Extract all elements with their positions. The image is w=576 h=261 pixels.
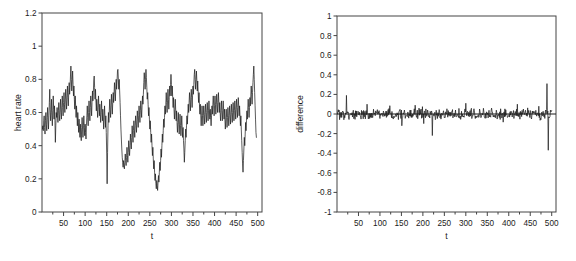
chart-panel-heart-rate: 00.20.40.60.811.250100150200250300350400…	[0, 0, 288, 261]
y-tick-label: -0.6	[317, 169, 332, 178]
y-tick-label: 0.8	[320, 32, 332, 41]
y-tick-label: 0.6	[320, 51, 332, 60]
x-tick-label: 350	[480, 219, 494, 228]
x-axis-group: 50100150200250300350400450500	[53, 212, 265, 228]
x-tick-label: 500	[251, 219, 265, 228]
x-tick-label: 350	[186, 219, 200, 228]
y-tick-label: -0.2	[317, 130, 332, 139]
x-tick-label: 250	[143, 219, 157, 228]
chart-panel-difference: -1-0.8-0.6-0.4-0.200.20.40.60.8150100150…	[288, 0, 576, 261]
y-axis-group: 00.20.40.60.811.2	[25, 9, 42, 217]
y-tick-label: -0.8	[317, 188, 332, 197]
x-tick-label: 200	[121, 219, 135, 228]
x-axis-title: t	[151, 231, 154, 241]
figure-root: 00.20.40.60.811.250100150200250300350400…	[0, 0, 576, 261]
x-tick-label: 50	[354, 219, 364, 228]
x-tick-label: 150	[395, 219, 409, 228]
y-tick-label: -1	[324, 208, 332, 217]
x-tick-label: 150	[100, 219, 114, 228]
y-tick-label: 1	[327, 12, 332, 21]
data-series-line	[337, 84, 551, 151]
data-series-line	[42, 66, 256, 190]
y-tick-label: 0.2	[320, 90, 332, 99]
x-tick-label: 100	[78, 219, 92, 228]
x-tick-label: 200	[416, 219, 430, 228]
y-axis-group: -1-0.8-0.6-0.4-0.200.20.40.60.81	[317, 12, 337, 217]
x-tick-label: 300	[459, 219, 473, 228]
x-tick-label: 50	[59, 219, 69, 228]
y-axis-title: heart rate	[13, 94, 23, 131]
x-axis-group: 50100150200250300350400450500	[348, 212, 559, 228]
y-tick-label: 0.4	[25, 142, 37, 151]
y-tick-label: 0.2	[25, 175, 37, 184]
y-tick-label: 0	[327, 110, 332, 119]
x-axis-title: t	[445, 231, 448, 241]
heart-rate-plot-svg: 00.20.40.60.811.250100150200250300350400…	[0, 0, 288, 261]
y-tick-label: 1	[32, 42, 37, 51]
x-tick-label: 400	[208, 219, 222, 228]
plot-frame	[42, 13, 262, 212]
y-tick-label: 1.2	[25, 9, 37, 18]
x-tick-label: 450	[523, 219, 537, 228]
x-tick-label: 500	[545, 219, 559, 228]
x-tick-label: 250	[438, 219, 452, 228]
y-tick-label: 0	[32, 208, 37, 217]
x-tick-label: 450	[229, 219, 243, 228]
x-tick-label: 100	[373, 219, 387, 228]
y-tick-label: 0.4	[320, 71, 332, 80]
y-axis-title: difference	[295, 95, 305, 133]
x-tick-label: 400	[502, 219, 516, 228]
difference-plot-svg: -1-0.8-0.6-0.4-0.200.20.40.60.8150100150…	[288, 0, 576, 261]
y-tick-label: 0.6	[25, 108, 37, 117]
y-tick-label: -0.4	[317, 149, 332, 158]
y-tick-label: 0.8	[25, 75, 37, 84]
x-tick-label: 300	[165, 219, 179, 228]
